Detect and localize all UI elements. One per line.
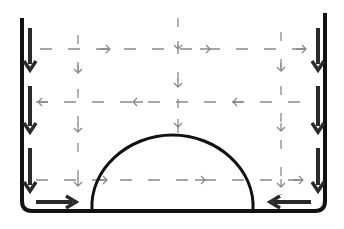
- flow-column-1: [74, 35, 82, 195]
- dome-deposit: [92, 135, 253, 211]
- wall-flow-arrows: [24, 28, 324, 191]
- flow-arrow-right-icon: [195, 176, 205, 184]
- flow-row-2: [36, 98, 308, 106]
- bottom-flow-arrows: [36, 196, 311, 208]
- flow-arrow-down-icon: [174, 119, 182, 127]
- flow-arrow-left-icon: [133, 98, 143, 106]
- flow-arrow-right-icon: [293, 176, 303, 184]
- flow-row-3: [36, 176, 308, 184]
- flow-arrow-left-icon: [38, 98, 48, 106]
- flow-row-1: [40, 45, 308, 53]
- wall-arrow-left-down-icon: [24, 86, 36, 132]
- wall-arrow-right-down-icon: [312, 148, 324, 191]
- wall-arrow-right-down-icon: [312, 28, 324, 70]
- flow-column-2: [174, 18, 182, 133]
- flow-arrow-down-icon: [174, 41, 182, 49]
- flow-arrow-right-icon: [100, 45, 110, 53]
- flow-arrow-down-icon: [74, 124, 82, 132]
- flow-arrow-left-icon: [233, 98, 243, 106]
- flow-arrow-right-icon: [200, 45, 210, 53]
- flow-arrow-down-icon: [74, 178, 82, 186]
- flow-column-3: [277, 32, 285, 195]
- bottom-arrow-right-icon: [36, 196, 76, 208]
- vessel-walls: [22, 13, 325, 211]
- vessel-flow-diagram: [0, 0, 344, 229]
- diagram-canvas: [0, 0, 344, 229]
- bottom-arrow-left-icon: [270, 196, 311, 208]
- flow-arrow-down-icon: [277, 123, 285, 131]
- flow-arrow-down-icon: [277, 179, 285, 187]
- flow-arrow-right-icon: [296, 45, 306, 53]
- wall-arrow-right-down-icon: [312, 86, 324, 132]
- flow-arrow-down-icon: [74, 65, 82, 73]
- dashed-flow-lines: [36, 18, 308, 195]
- flow-arrow-down-icon: [174, 79, 182, 87]
- flow-arrow-down-icon: [277, 63, 285, 71]
- wall-arrow-left-down-icon: [24, 148, 36, 191]
- wall-arrow-left-down-icon: [24, 28, 36, 70]
